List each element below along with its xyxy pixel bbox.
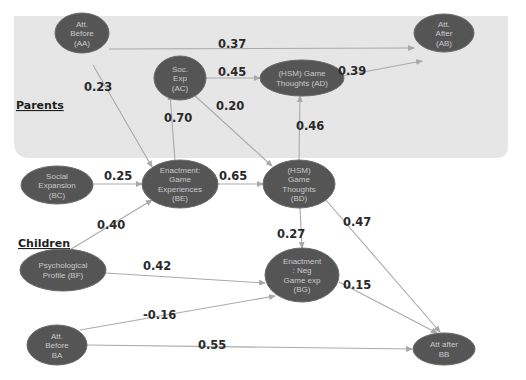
edge-label-aa-be: 0.23	[84, 80, 112, 94]
node-bb: Att afterBB	[413, 333, 475, 365]
node-label-line: (AB)	[436, 39, 452, 48]
node-label-line: Psychological	[39, 261, 88, 270]
node-bf: PsychologicalProfile (BF)	[20, 249, 106, 291]
edge-label-bf-be: 0.40	[97, 218, 125, 232]
parents-group-label: Parents	[16, 99, 64, 112]
node-ab: Att.After(AB)	[414, 14, 474, 52]
node-label-line: (BC)	[49, 191, 66, 200]
node-label-line: Soc.	[172, 65, 188, 74]
node-label-line: Exp	[173, 74, 187, 83]
node-label-line: Before	[45, 341, 69, 350]
node-label-line: Enactment:	[160, 166, 200, 175]
node-label-line: : Neg	[292, 266, 311, 275]
node-label-line: Profile (BF)	[43, 271, 84, 280]
node-label-line: Social	[46, 172, 68, 181]
node-label-line: (BG)	[294, 285, 311, 294]
node-label-line: BA	[52, 351, 63, 360]
edge-bf-to-bg	[106, 273, 265, 283]
edge-label-be-ac: 0.70	[164, 111, 192, 125]
node-label-line: Att.	[51, 332, 63, 341]
edge-ba-to-bg	[80, 296, 275, 330]
node-bd: (HSM)GameThoughts(BD)	[263, 160, 335, 208]
node-ba: Att.BeforeBA	[27, 325, 87, 365]
node-label-line: BB	[439, 350, 450, 359]
path-diagram: Parents Children Att.Before(AA)Soc.Exp(A…	[0, 0, 526, 380]
edge-label-be-bd: 0.65	[219, 169, 247, 183]
edge-ba-to-bb	[87, 345, 412, 349]
edge-label-ba-bb: 0.55	[198, 338, 226, 352]
edge-label-bd-bg: 0.27	[277, 227, 305, 241]
node-label-line: Game	[288, 175, 310, 184]
edge-label-ac-ad: 0.45	[218, 65, 246, 79]
node-label-line: Experiences	[158, 185, 202, 194]
node-label-line: (BE)	[172, 194, 188, 203]
node-label-line: Att after	[430, 340, 458, 349]
node-bg: Enactment: NegGame exp(BG)	[265, 248, 339, 302]
node-label-line: (HSM) Game	[278, 69, 326, 78]
node-label-line: Game	[169, 175, 191, 184]
edge-label-aa-ab: 0.37	[218, 37, 246, 51]
node-label-line: Before	[70, 29, 94, 38]
node-be: Enactment:GameExperiences(BE)	[142, 160, 218, 208]
node-label-line: Att.	[438, 20, 450, 29]
node-label-line: (AC)	[172, 84, 189, 93]
node-aa: Att.Before(AA)	[55, 13, 109, 53]
edge-label-bd-bb: 0.47	[343, 215, 371, 229]
edge-label-ad-ab: 0.39	[338, 64, 366, 78]
edge-label-bc-be: 0.25	[104, 169, 132, 183]
node-ad: (HSM) GameThoughts (AD)	[260, 60, 344, 96]
node-label-line: Expansion	[38, 181, 75, 190]
node-label-line: Att.	[76, 20, 88, 29]
node-bc: SocialExpansion(BC)	[21, 166, 93, 204]
node-label-line: After	[436, 29, 453, 38]
edge-label-bg-bb: 0.15	[343, 278, 371, 292]
edge-label-bd-ad: 0.46	[296, 119, 324, 133]
node-label-line: Enactment	[283, 257, 322, 266]
edge-label-ba-bg: -0.16	[143, 308, 176, 322]
node-label-line: Game exp	[284, 276, 321, 285]
children-group-label: Children	[18, 237, 70, 250]
node-label-line: (BD)	[291, 194, 308, 203]
edge-label-ac-bd: 0.20	[216, 99, 244, 113]
node-label-line: Thoughts	[282, 185, 315, 194]
node-label-line: (AA)	[74, 39, 90, 48]
node-label-line: (HSM)	[287, 166, 310, 175]
node-ac: Soc.Exp(AC)	[154, 56, 206, 100]
node-label-line: Thoughts (AD)	[276, 79, 328, 88]
edge-label-bf-bg: 0.42	[143, 259, 171, 273]
